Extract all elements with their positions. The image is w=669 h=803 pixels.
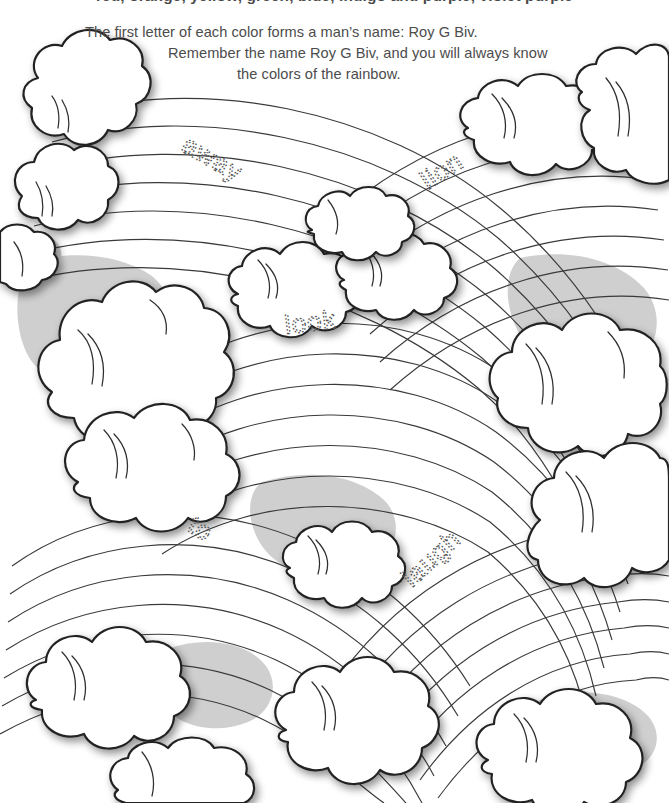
worksheet-page: away lion look to laugh red, orange, yel… bbox=[0, 0, 669, 803]
artwork-svg: away lion look to laugh bbox=[0, 0, 669, 803]
cloud-left-lower-large bbox=[65, 404, 239, 532]
cloud-upper-middle bbox=[306, 187, 415, 260]
cloud-left-upper bbox=[15, 144, 119, 230]
cloud-bottom-left bbox=[27, 627, 190, 749]
cloud-right-middle-large bbox=[490, 314, 667, 456]
trace-word-away: away bbox=[177, 129, 248, 187]
cloud-bottom-right bbox=[477, 689, 643, 803]
cloud-bottom-bank bbox=[110, 738, 254, 803]
cloud-right-upper bbox=[576, 45, 669, 184]
cloud-laugh-left bbox=[283, 522, 405, 608]
cloud-group bbox=[0, 30, 669, 803]
trace-word-look: look bbox=[283, 304, 338, 340]
cloud-bottom-center bbox=[275, 657, 439, 784]
rainbow-clouds-artwork: away lion look to laugh bbox=[0, 0, 669, 803]
cloud-right-lower bbox=[527, 443, 669, 587]
